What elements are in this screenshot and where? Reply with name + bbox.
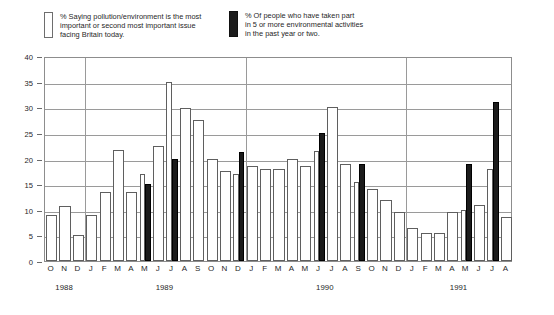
x-axis-tick-label: S [195,264,200,273]
bar-open [327,107,338,261]
bar-open [207,159,218,262]
bar-open [113,150,124,261]
x-axis-tick-label: J [410,264,414,273]
bar-filled [493,102,499,261]
x-axis-tick-label: F [262,264,267,273]
x-axis-tick-label: D [235,264,241,273]
x-axis-tick-label: J [89,264,93,273]
legend-label-open: % Saying pollution/environment is the mo… [60,12,201,40]
bar-filled [359,164,365,261]
x-axis-tick-label: J [490,264,494,273]
bars-container [45,58,511,261]
y-axis-tick-mark [37,211,42,212]
bar-open [220,171,231,261]
bar-open [273,169,284,261]
y-axis-tick-label: 15 [25,181,33,190]
y-axis-tick-mark [37,262,42,263]
y-axis-tick-mark [37,236,42,237]
bar-open [501,217,512,261]
bar-open [287,159,298,262]
x-axis-tick-label: O [208,264,214,273]
x-axis-tick-label: J [249,264,253,273]
x-axis-tick-label: A [128,264,133,273]
bar-open [474,205,485,261]
x-axis-tick-label: O [368,264,374,273]
x-axis-tick-label: A [289,264,294,273]
legend-entry-filled-bars: % Of people who have taken part in 5 or … [229,11,363,39]
x-axis-tick-label: J [316,264,320,273]
x-axis-tick-label: A [449,264,454,273]
y-axis-tick-mark [37,185,42,186]
x-axis-tick-label: O [48,264,54,273]
bar-filled [145,184,151,261]
bar-filled [466,164,472,261]
x-axis-tick-label: F [423,264,428,273]
bar-chart: % Saying pollution/environment is the mo… [0,0,554,315]
y-axis-tick-label: 5 [29,232,33,241]
bar-open [193,120,204,261]
legend-swatch-open-icon [44,12,53,38]
x-axis-tick-label: D [395,264,401,273]
bar-open [407,228,418,261]
y-axis-tick-label: 25 [25,129,33,138]
x-axis-tick-label: N [61,264,67,273]
y-axis-tick-label: 30 [25,104,33,113]
x-axis-tick-label: J [169,264,173,273]
bar-open [153,146,164,261]
bar-open [46,215,57,261]
y-axis-tick-label: 20 [25,155,33,164]
y-axis-tick-label: 10 [25,206,33,215]
bar-open [447,212,458,261]
x-axis-year-label: 1989 [156,283,173,292]
y-axis-tick-mark [37,83,42,84]
y-axis-tick-mark [37,57,42,58]
bar-open [260,169,271,261]
y-axis-tick-label: 40 [25,53,33,62]
legend-label-filled: % Of people who have taken part in 5 or … [245,11,363,39]
bar-open [394,212,405,261]
bar-open [434,233,445,261]
x-axis-tick-label: M [141,264,148,273]
x-axis-tick-label: A [182,264,187,273]
x-axis-tick-label: M [435,264,442,273]
plot-area [44,57,512,262]
x-axis-tick-label: N [382,264,388,273]
x-axis-tick-label: M [275,264,282,273]
y-axis: 0510152025303540 [0,57,42,262]
bar-open [367,189,378,261]
y-axis-tick-mark [37,160,42,161]
chart-legend: % Saying pollution/environment is the mo… [44,9,514,51]
bar-open [340,164,351,261]
x-axis-tick-label: M [114,264,121,273]
bar-filled [319,133,325,261]
legend-swatch-filled-icon [229,11,238,37]
bar-open [126,192,137,261]
bar-open [100,192,111,261]
y-axis-tick-label: 0 [29,258,33,267]
y-axis-tick-label: 35 [25,78,33,87]
x-axis-tick-label: M [301,264,308,273]
x-axis-year-label: 1990 [316,283,333,292]
x-axis-tick-label: N [222,264,228,273]
x-axis-tick-label: F [102,264,107,273]
x-axis-tick-label: J [329,264,333,273]
bar-open [300,166,311,261]
bar-filled [239,152,245,261]
bar-open [180,108,191,261]
legend-entry-open-bars: % Saying pollution/environment is the mo… [44,12,201,40]
bar-open [73,235,84,261]
y-axis-tick-mark [37,134,42,135]
x-axis-year-label: 1991 [450,283,467,292]
x-axis-tick-label: D [75,264,81,273]
bar-open [421,233,432,261]
bar-open [380,200,391,262]
x-axis-tick-label: J [156,264,160,273]
x-axis-tick-label: J [477,264,481,273]
bar-filled [172,159,178,262]
bar-open [247,166,258,261]
x-axis-tick-label: A [342,264,347,273]
x-axis-month-labels: ONDJFMAMJJASONDJFMAMJJASONDJFMAMJJA [44,264,512,278]
bar-open [86,215,97,261]
y-axis-tick-mark [37,108,42,109]
x-axis-year-label: 1988 [55,283,72,292]
